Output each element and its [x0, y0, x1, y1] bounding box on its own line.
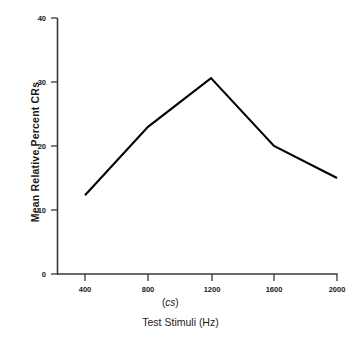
figure-container: Mean Relative Percent CRs 40 30 20 10 0	[0, 0, 361, 343]
y-tick-label-0: 0	[42, 270, 46, 279]
x-axis-annotation: (cs)	[162, 297, 262, 308]
x-tick-label-800: 800	[142, 285, 155, 294]
y-tick-label-40: 40	[38, 14, 46, 23]
annotation-cs-text: cs	[165, 297, 175, 308]
y-axis-ticks	[51, 18, 58, 274]
x-tick-label-1600: 1600	[266, 285, 283, 294]
annotation-close-paren: )	[175, 297, 178, 308]
data-series-line	[85, 78, 337, 195]
caption-fragment	[8, 336, 208, 343]
x-axis-title: Test Stimuli (Hz)	[0, 316, 361, 328]
x-tick-label-1200: 1200	[204, 285, 221, 294]
line-chart-plot: 40 30 20 10 0 400 800 1200 1600 2000	[0, 0, 361, 343]
x-tick-label-400: 400	[79, 285, 92, 294]
y-tick-label-20: 20	[38, 142, 46, 151]
x-tick-label-2000: 2000	[329, 285, 346, 294]
y-tick-label-30: 30	[38, 78, 46, 87]
y-tick-label-10: 10	[38, 206, 46, 215]
x-axis-ticks	[85, 274, 337, 281]
